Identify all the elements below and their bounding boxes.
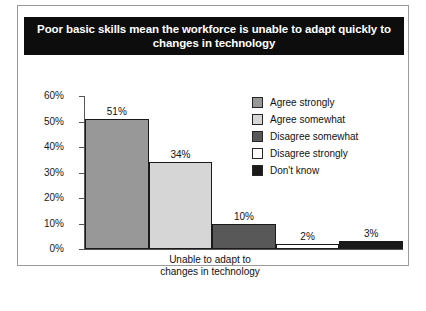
x-axis-baseline xyxy=(85,249,403,250)
y-axis-tick-label: 60% xyxy=(30,91,64,101)
legend-item[interactable]: Disagree somewhat xyxy=(252,128,402,145)
y-axis-tick-mark xyxy=(79,198,85,199)
y-axis-tick-label: 40% xyxy=(30,142,64,152)
legend-label: Agree somewhat xyxy=(270,114,345,125)
chart-bar xyxy=(276,244,340,249)
chart-title-banner: Poor basic skills mean the workforce is … xyxy=(24,17,404,55)
bar-value-label: 2% xyxy=(276,231,340,242)
y-axis-tick-mark xyxy=(79,122,85,123)
legend-item[interactable]: Don't know xyxy=(252,162,402,179)
legend-label: Don't know xyxy=(270,165,319,176)
bar-value-label: 51% xyxy=(85,106,149,117)
legend-label: Disagree strongly xyxy=(270,148,348,159)
legend-swatch-icon xyxy=(252,131,263,142)
bar-value-label: 10% xyxy=(212,211,276,222)
y-axis-tick-label: 50% xyxy=(30,117,64,127)
y-axis-tick-label: 20% xyxy=(30,193,64,203)
y-axis-tick-mark xyxy=(79,249,85,250)
chart-bar xyxy=(149,162,213,249)
legend-label: Disagree somewhat xyxy=(270,131,358,142)
x-axis-label: Unable to adapt tochanges in technology xyxy=(85,254,335,278)
x-axis-label-line: Unable to adapt to xyxy=(85,254,335,266)
y-axis-tick-mark xyxy=(79,224,85,225)
y-axis-tick-mark xyxy=(79,147,85,148)
legend-swatch-icon xyxy=(252,148,263,159)
chart-legend: Agree stronglyAgree somewhatDisagree som… xyxy=(252,94,402,179)
legend-item[interactable]: Disagree strongly xyxy=(252,145,402,162)
chart-bar xyxy=(339,241,403,249)
legend-swatch-icon xyxy=(252,165,263,176)
bar-value-label: 34% xyxy=(149,149,213,160)
y-axis-tick-label: 0% xyxy=(30,244,64,254)
legend-item[interactable]: Agree strongly xyxy=(252,94,402,111)
legend-swatch-icon xyxy=(252,114,263,125)
legend-item[interactable]: Agree somewhat xyxy=(252,111,402,128)
y-axis-tick-mark xyxy=(79,96,85,97)
legend-label: Agree strongly xyxy=(270,97,334,108)
chart-bar xyxy=(85,119,149,249)
chart-bar xyxy=(212,224,276,250)
legend-swatch-icon xyxy=(252,97,263,108)
bar-value-label: 3% xyxy=(339,228,403,239)
chart-title: Poor basic skills mean the workforce is … xyxy=(32,22,396,50)
y-axis-tick-label: 10% xyxy=(30,219,64,229)
plot-zone: 0%10%20%30%40%50%60% Unable to adapt toc… xyxy=(24,68,404,260)
y-axis-tick-mark xyxy=(79,173,85,174)
y-axis-tick-labels: 0%10%20%30%40%50%60% xyxy=(24,68,64,260)
chart-figure-frame: Poor basic skills mean the workforce is … xyxy=(17,5,409,266)
x-axis-label-line: changes in technology xyxy=(85,266,335,278)
y-axis-tick-label: 30% xyxy=(30,168,64,178)
